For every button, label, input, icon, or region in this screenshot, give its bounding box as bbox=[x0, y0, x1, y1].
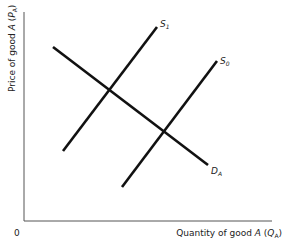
y-axis-label-close: ) bbox=[7, 5, 17, 9]
demand-label-name: D bbox=[211, 166, 218, 176]
demand-label-sub: A bbox=[217, 170, 222, 177]
x-axis-label-var: A bbox=[254, 228, 261, 238]
origin-label: 0 bbox=[14, 228, 20, 238]
supply-curve-s1-label: S1 bbox=[160, 19, 170, 30]
supply-curve-s0-label: S0 bbox=[220, 56, 230, 67]
supply-demand-diagram: 0 Price of good A (PA) Quantity of good … bbox=[0, 0, 290, 248]
x-axis-label-close: ) bbox=[278, 228, 282, 238]
x-axis-label-prefix: Quantity of good bbox=[176, 228, 255, 238]
supply-curve-s0 bbox=[122, 61, 217, 187]
s1-label-sub: 1 bbox=[166, 23, 170, 30]
demand-curve-da bbox=[53, 47, 208, 165]
supply-curve-s1 bbox=[63, 27, 157, 151]
s0-label-sub: 0 bbox=[226, 60, 230, 67]
demand-curve-label: DA bbox=[211, 166, 222, 177]
y-axis-label: Price of good A (PA) bbox=[7, 5, 18, 92]
x-axis-label: Quantity of good A (QA) bbox=[176, 228, 282, 239]
x-axis-label-sym: Q bbox=[267, 228, 274, 238]
y-axis-label-prefix: Price of good bbox=[7, 30, 17, 92]
y-axis-label-var: A bbox=[7, 24, 17, 31]
